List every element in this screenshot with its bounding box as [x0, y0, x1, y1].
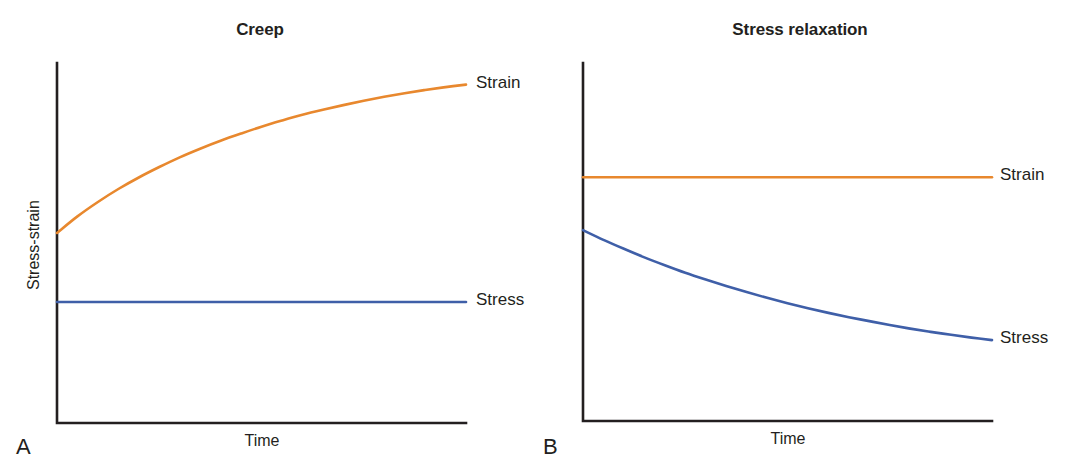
figure-canvas: Creep Stress-strain Time Strain Stress A… [0, 0, 1077, 472]
stress-curve [583, 230, 992, 340]
panel-letter-b: B [543, 436, 558, 458]
panel-stress-relaxation: Stress relaxation Stress-strain Time Str… [540, 0, 1077, 472]
series-label-stress: Stress [1000, 328, 1048, 348]
stress-relaxation-plot [540, 0, 1077, 472]
x-axis-label: Time [57, 432, 467, 450]
x-axis-label: Time [583, 430, 993, 448]
panel-creep: Creep Stress-strain Time Strain Stress A [0, 0, 540, 472]
panel-letter-a: A [16, 436, 31, 458]
strain-curve [57, 85, 466, 233]
creep-plot [0, 0, 540, 472]
axis-lines [57, 63, 466, 423]
axis-lines [583, 63, 992, 421]
series-label-strain: Strain [476, 73, 520, 93]
y-axis-label: Stress-strain [25, 200, 43, 290]
series-label-stress: Stress [476, 290, 524, 310]
series-label-strain: Strain [1000, 165, 1044, 185]
